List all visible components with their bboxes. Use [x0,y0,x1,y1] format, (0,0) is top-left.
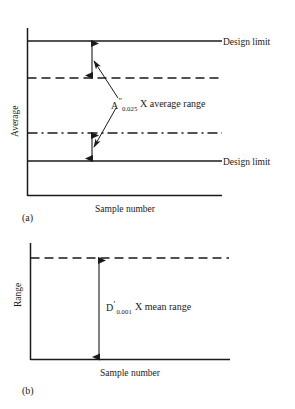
panel-a-lower-design-limit-label: Design limit [223,157,271,167]
panel-b-annotation-subscript: 0.001 [117,308,132,315]
panel-b-annotation-symbol: D [106,302,113,313]
figure-container: A ″ 0.025 X average range Design limit D… [0,0,295,409]
control-chart-figure: A ″ 0.025 X average range Design limit D… [0,0,295,409]
panel-b: D ′ 0.001 X mean range Range Sample numb… [13,243,230,397]
panel-a: A ″ 0.025 X average range Design limit D… [10,28,271,224]
panel-b-annotation: D ′ 0.001 X mean range [106,299,192,315]
panel-a-leader-upper [94,61,118,98]
panel-a-leader-lower [94,108,116,147]
panel-a-annotation-subscript: 0.025 [122,105,138,112]
panel-a-annotation: A ″ 0.025 X average range [111,96,206,112]
panel-b-x-axis-label: Sample number [100,368,161,378]
panel-a-x-axis-label: Sample number [95,204,156,214]
panel-a-upper-design-limit-label: Design limit [223,37,271,47]
panel-b-part-label: (b) [22,385,34,397]
panel-b-annotation-prime: ′ [114,299,116,309]
panel-a-annotation-rest: X average range [140,98,206,109]
panel-a-part-label: (a) [22,212,33,224]
panel-a-y-axis-label: Average [10,106,20,137]
panel-b-y-axis-label: Range [13,283,23,307]
panel-b-annotation-rest: X mean range [135,301,192,312]
